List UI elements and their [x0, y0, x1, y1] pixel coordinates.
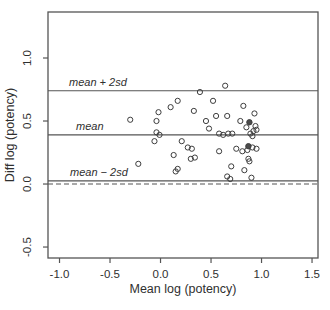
reference-line-label: mean + 2sd — [69, 76, 128, 88]
data-point — [179, 139, 184, 144]
bland-altman-plot: mean + 2sdmeanmean − 2sd -1.0-0.50.00.51… — [0, 0, 330, 310]
y-tick-label: 0.0 — [21, 176, 33, 192]
data-point — [240, 149, 245, 154]
x-tick-label: 0.5 — [203, 268, 219, 280]
data-point — [229, 164, 234, 169]
x-tick-label: 1.0 — [254, 268, 270, 280]
data-point — [225, 113, 230, 118]
data-point — [223, 83, 228, 88]
data-point — [210, 98, 215, 103]
x-tick-label: 0.0 — [153, 268, 169, 280]
data-point — [156, 110, 161, 115]
scatter-points — [128, 83, 259, 181]
data-point — [234, 146, 239, 151]
x-axis-title: Mean log (potency) — [129, 282, 236, 296]
data-point — [152, 139, 157, 144]
reference-line-label: mean — [76, 120, 104, 132]
reference-lines: mean + 2sdmeanmean − 2sd — [48, 76, 318, 184]
data-point — [171, 152, 176, 157]
data-point — [213, 113, 218, 118]
x-tick-label: -0.5 — [100, 268, 120, 280]
data-point — [154, 118, 159, 123]
y-tick-label: 1.0 — [21, 50, 33, 66]
x-axis: -1.0-0.50.00.51.01.5 — [50, 258, 320, 280]
data-point — [168, 105, 173, 110]
data-point — [175, 98, 180, 103]
data-point-dark — [247, 120, 252, 125]
data-point — [136, 161, 141, 166]
data-point — [128, 117, 133, 122]
data-point — [191, 108, 196, 113]
data-point — [238, 118, 243, 123]
y-tick-label: 0.5 — [21, 113, 33, 129]
y-axis-title: Diff log (potency) — [3, 88, 17, 182]
y-axis: -0.50.00.51.0 — [21, 50, 48, 257]
data-point — [244, 125, 249, 130]
data-point — [249, 175, 254, 180]
data-point — [206, 126, 211, 131]
data-point — [217, 149, 222, 154]
y-tick-label: -0.5 — [21, 237, 33, 257]
data-point — [242, 168, 247, 173]
data-point — [203, 118, 208, 123]
data-point-dark — [246, 144, 251, 149]
x-tick-label: 1.5 — [304, 268, 320, 280]
data-point — [241, 103, 246, 108]
bland-altman-figure: mean + 2sdmeanmean − 2sd -1.0-0.50.00.51… — [0, 0, 330, 310]
reference-line-label: mean − 2sd — [70, 166, 129, 178]
x-tick-label: -1.0 — [50, 268, 70, 280]
data-point — [252, 111, 257, 116]
